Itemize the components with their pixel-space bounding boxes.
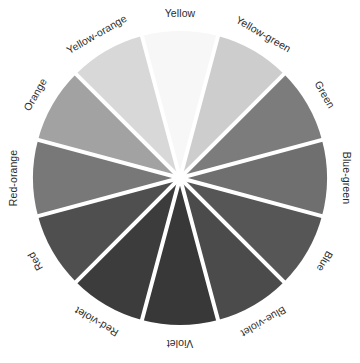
wheel-slice-label: Blue-green (341, 152, 353, 204)
wheel-slice-label: Violet (167, 338, 194, 350)
wheel-slice-label: Red-orange (7, 150, 19, 207)
color-wheel-svg: YellowYellow-greenGreenBlue-greenBlueBlu… (0, 0, 360, 363)
color-wheel-figure: YellowYellow-greenGreenBlue-greenBlueBlu… (0, 0, 360, 363)
wheel-slice-label: Yellow (165, 7, 196, 19)
